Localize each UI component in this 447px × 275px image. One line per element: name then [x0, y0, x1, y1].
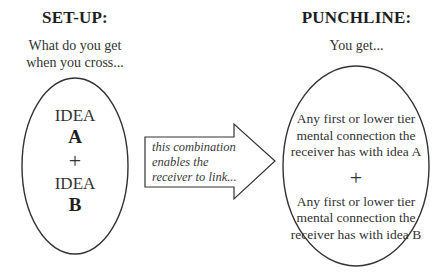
connection-a: Any first or lower tier mental connectio… — [283, 111, 429, 161]
idea-a-letter: A — [22, 126, 128, 148]
arrow-line3: receiver to link... — [152, 170, 242, 185]
plus-sign: + — [283, 165, 429, 191]
setup-ellipse-content: IDEA A + IDEA B — [22, 106, 128, 216]
arrow-label: this combination enables the receiver to… — [152, 140, 242, 185]
connection-b: Any first or lower tier mental connectio… — [283, 194, 429, 244]
arrow-line2: enables the — [152, 155, 242, 170]
punchline-heading: PUNCHLINE: — [283, 8, 430, 28]
connection-a-line1: Any first or lower tier — [283, 111, 429, 128]
connection-a-line2: mental connection the — [283, 128, 429, 145]
setup-prompt-line1: What do you get — [0, 37, 150, 54]
setup-prompt-line2: when you cross... — [0, 54, 150, 71]
setup-heading: SET-UP: — [0, 8, 150, 28]
punchline-ellipse-content: Any first or lower tier mental connectio… — [283, 111, 429, 243]
plus-sign: + — [22, 148, 128, 174]
connection-b-line3: receiver has with idea B — [283, 227, 429, 244]
setup-prompt: What do you get when you cross... — [0, 37, 150, 71]
connection-a-line3: receiver has with idea A — [283, 144, 429, 161]
idea-b-label: IDEA — [22, 174, 128, 194]
idea-a-label: IDEA — [22, 106, 128, 126]
connection-b-line2: mental connection the — [283, 210, 429, 227]
connection-b-line1: Any first or lower tier — [283, 194, 429, 211]
punchline-prompt: You get... — [283, 37, 430, 54]
arrow-line1: this combination — [152, 140, 242, 155]
idea-b-letter: B — [22, 194, 128, 216]
